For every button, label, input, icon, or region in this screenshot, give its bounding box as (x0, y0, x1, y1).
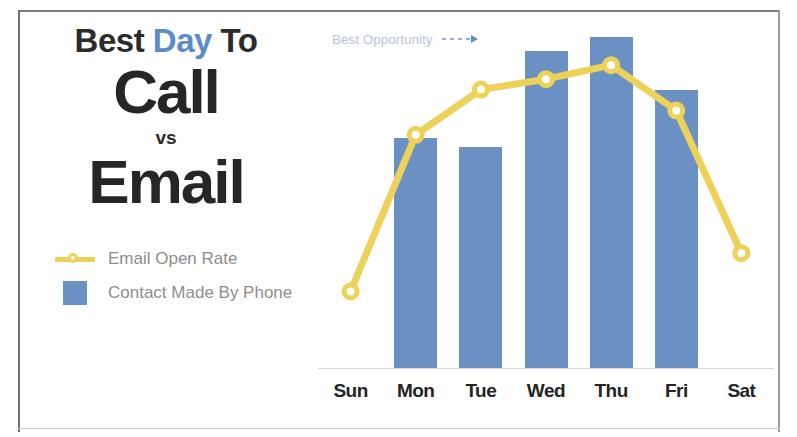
line-marker-tue (474, 83, 487, 96)
square-swatch-icon (63, 281, 87, 305)
title-and-legend-panel: Best Day To Call vs Email Email Open Rat… (22, 14, 310, 414)
axis-baseline (318, 368, 774, 369)
line-marker-sat (735, 247, 748, 260)
x-axis-labels: SunMonTueWedThuFriSat (318, 380, 774, 410)
line-marker-thu (605, 59, 618, 72)
headline-prefix: Best (75, 22, 153, 59)
headline-suffix: To (212, 22, 258, 59)
plot-area (318, 20, 774, 368)
line-series-layer (318, 20, 774, 368)
frame-border-left (18, 10, 20, 432)
headline-email: Email (22, 153, 310, 212)
legend-label-email-open-rate: Email Open Rate (98, 249, 237, 269)
x-tick-fri: Fri (644, 380, 709, 402)
legend-item-contact-made-by-phone: Contact Made By Phone (52, 276, 310, 310)
line-marker-mon (409, 128, 422, 141)
legend-item-email-open-rate: Email Open Rate (52, 242, 310, 276)
x-tick-sun: Sun (318, 380, 383, 402)
x-tick-tue: Tue (448, 380, 513, 402)
chart-panel: Best Opportunity SunMonTueWedThuFriSat (314, 14, 776, 424)
headline-vs-separator: vs (22, 128, 310, 147)
x-tick-wed: Wed (513, 380, 578, 402)
headline-accent-word: Day (153, 22, 212, 59)
chart-legend: Email Open Rate Contact Made By Phone (22, 242, 310, 310)
headline-call: Call (22, 63, 310, 122)
frame-border-top (18, 10, 780, 12)
legend-marker-container (52, 252, 98, 266)
line-marker-wed (540, 73, 553, 86)
frame-border-bottom (18, 428, 780, 429)
line-with-marker-icon (55, 252, 95, 266)
infographic-canvas: Best Day To Call vs Email Email Open Rat… (0, 0, 797, 437)
x-tick-mon: Mon (383, 380, 448, 402)
x-tick-thu: Thu (579, 380, 644, 402)
line-series-svg (318, 20, 774, 368)
headline-line-1: Best Day To (22, 24, 310, 57)
x-tick-sat: Sat (709, 380, 774, 402)
line-marker-sun (344, 285, 357, 298)
legend-label-contact-made-by-phone: Contact Made By Phone (98, 283, 292, 303)
legend-marker-container (52, 281, 98, 305)
frame-border-right (778, 10, 780, 432)
line-marker-fri (670, 104, 683, 117)
